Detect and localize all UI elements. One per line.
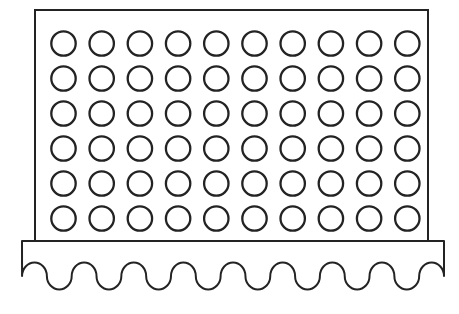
hole-circle — [357, 66, 381, 90]
hole-circle — [395, 171, 419, 195]
hole-circle — [166, 31, 190, 55]
base-outline — [22, 241, 444, 290]
hole-circle — [395, 206, 419, 230]
hole-circle — [51, 31, 75, 55]
hole-circle — [51, 206, 75, 230]
hole-circle — [281, 101, 305, 125]
hole-circle — [204, 31, 228, 55]
hole-circle — [204, 136, 228, 160]
hole-circle — [166, 66, 190, 90]
hole-circle — [166, 101, 190, 125]
hole-circle — [319, 66, 343, 90]
hole-circle — [204, 206, 228, 230]
hole-circle — [242, 31, 266, 55]
hole-circle — [357, 206, 381, 230]
hole-circle — [90, 171, 114, 195]
hole-circle — [90, 136, 114, 160]
hole-circle — [90, 206, 114, 230]
hole-circle — [90, 101, 114, 125]
hole-circle — [128, 171, 152, 195]
hole-grid — [51, 31, 419, 230]
hole-circle — [242, 136, 266, 160]
hole-circle — [281, 31, 305, 55]
hole-circle — [395, 31, 419, 55]
hole-circle — [128, 101, 152, 125]
hole-circle — [51, 66, 75, 90]
hole-circle — [281, 136, 305, 160]
hole-circle — [242, 206, 266, 230]
hole-circle — [319, 136, 343, 160]
hole-circle — [128, 66, 152, 90]
hole-circle — [128, 31, 152, 55]
hole-circle — [395, 66, 419, 90]
hole-circle — [242, 171, 266, 195]
hole-circle — [242, 101, 266, 125]
illustration-canvas — [0, 0, 459, 314]
hole-circle — [90, 66, 114, 90]
hole-circle — [51, 101, 75, 125]
hole-circle — [166, 206, 190, 230]
hole-circle — [281, 206, 305, 230]
hole-circle — [357, 101, 381, 125]
hole-circle — [395, 101, 419, 125]
line-drawing — [0, 0, 459, 314]
hole-circle — [319, 206, 343, 230]
hole-circle — [128, 136, 152, 160]
hole-circle — [51, 171, 75, 195]
hole-circle — [281, 66, 305, 90]
hole-circle — [204, 101, 228, 125]
hole-circle — [395, 136, 419, 160]
hole-circle — [319, 171, 343, 195]
hole-circle — [357, 136, 381, 160]
hole-circle — [51, 136, 75, 160]
hole-circle — [319, 101, 343, 125]
hole-circle — [204, 66, 228, 90]
hole-circle — [166, 136, 190, 160]
hole-circle — [357, 31, 381, 55]
hole-circle — [166, 171, 190, 195]
hole-circle — [319, 31, 343, 55]
hole-circle — [90, 31, 114, 55]
hole-circle — [128, 206, 152, 230]
hole-circle — [242, 66, 266, 90]
hole-circle — [357, 171, 381, 195]
hole-circle — [204, 171, 228, 195]
hole-circle — [281, 171, 305, 195]
